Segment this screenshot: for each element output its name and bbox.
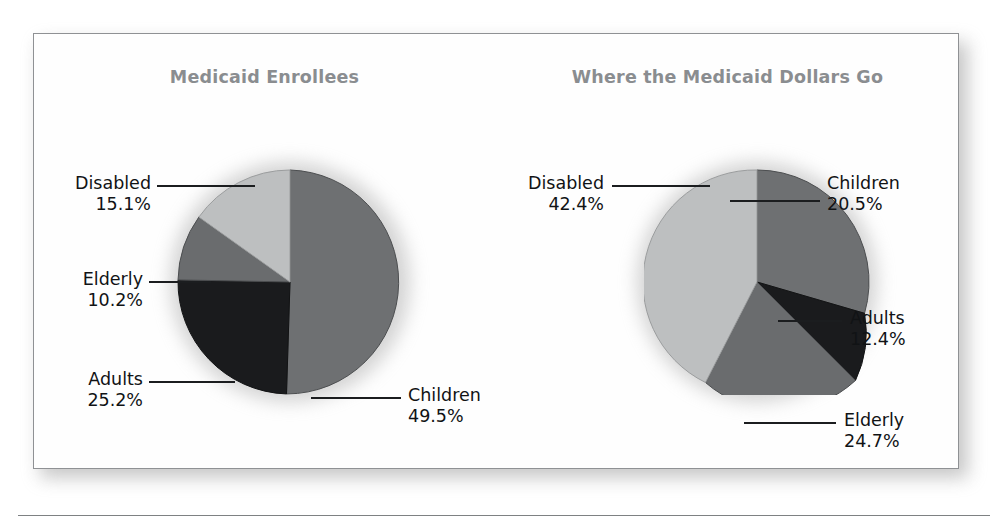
pie-slice-adults-left[interactable] bbox=[178, 280, 290, 394]
page-divider-rule bbox=[18, 515, 990, 516]
leader-line-elderly-left bbox=[149, 281, 211, 283]
leader-line-elderly-right bbox=[744, 422, 836, 424]
leader-line-adults-left bbox=[149, 381, 235, 383]
leader-line-children-left bbox=[311, 397, 401, 399]
pie-slice-children-left[interactable] bbox=[287, 170, 399, 394]
callout-label: Disabled bbox=[39, 173, 151, 194]
callout-value: 25.2% bbox=[39, 390, 143, 411]
callout-value: 12.4% bbox=[850, 329, 954, 350]
callout-disabled-left: Disabled 15.1% bbox=[39, 173, 151, 214]
leader-line-adults-right bbox=[778, 320, 842, 322]
callout-adults-right: Adults 12.4% bbox=[850, 308, 954, 349]
callout-children-right: Children 20.5% bbox=[827, 173, 945, 214]
callout-label: Children bbox=[827, 173, 945, 194]
callout-value: 10.2% bbox=[39, 290, 143, 311]
callout-adults-left: Adults 25.2% bbox=[39, 369, 143, 410]
callout-value: 42.4% bbox=[488, 194, 604, 215]
callout-label: Disabled bbox=[488, 173, 604, 194]
callout-label: Adults bbox=[39, 369, 143, 390]
callout-value: 20.5% bbox=[827, 194, 945, 215]
leader-line-disabled-right bbox=[612, 185, 710, 187]
callout-value: 24.7% bbox=[844, 431, 954, 452]
chart-title-right: Where the Medicaid Dollars Go bbox=[496, 67, 959, 87]
callout-value: 15.1% bbox=[39, 194, 151, 215]
callout-disabled-right: Disabled 42.4% bbox=[488, 173, 604, 214]
chart-medicaid-enrollees: Medicaid Enrollees Disabled 15.1% Eld bbox=[33, 33, 496, 469]
figure-root: Medicaid Enrollees Disabled 15.1% Eld bbox=[0, 0, 1006, 529]
leader-line-disabled-left bbox=[157, 185, 255, 187]
chart-title-left: Medicaid Enrollees bbox=[33, 67, 496, 87]
leader-line-children-right bbox=[730, 200, 820, 202]
callout-label: Adults bbox=[850, 308, 954, 329]
callout-elderly-right: Elderly 24.7% bbox=[844, 410, 954, 451]
chart-medicaid-dollars: Where the Medicaid Dollars Go Disabled 4… bbox=[496, 33, 959, 469]
callout-label: Elderly bbox=[844, 410, 954, 431]
callout-elderly-left: Elderly 10.2% bbox=[39, 269, 143, 310]
callout-label: Elderly bbox=[39, 269, 143, 290]
